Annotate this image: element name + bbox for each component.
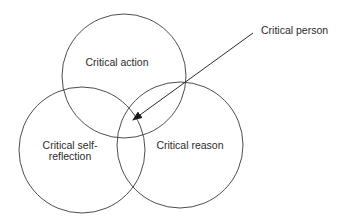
arrow-critical-person xyxy=(133,33,253,120)
label-critical-person: Critical person xyxy=(261,24,328,36)
circle-critical-action xyxy=(62,14,186,138)
label-critical-reason: Critical reason xyxy=(156,139,223,151)
label-critical-action: Critical action xyxy=(85,56,148,68)
label-critical-self-reflection-line2: reflection xyxy=(49,150,92,162)
venn-diagram: Critical action Critical self- reflectio… xyxy=(0,0,342,220)
